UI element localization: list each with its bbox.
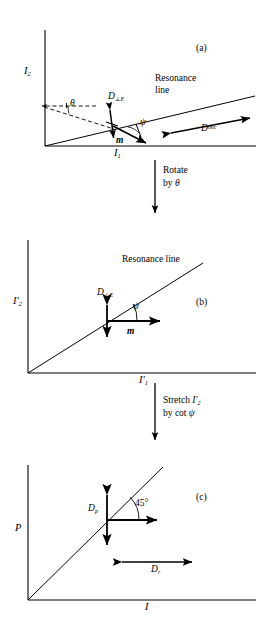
panel-c-angle-label: 45° (135, 499, 148, 509)
panel-a-graph (42, 30, 256, 146)
panel-c-y-axis-label: P (15, 523, 21, 534)
panel-a-theta-label: θ (70, 99, 75, 109)
panel-b-x-axis-label-sub: 1 (145, 379, 148, 386)
panel-a-x-axis-label-sub: 1 (118, 152, 121, 159)
connector-stretch-line2-prefix: by cot (163, 408, 189, 418)
panel-a-tag: (a) (196, 44, 207, 54)
connector-stretch-line1: Stretch I′2 (163, 396, 200, 407)
panel-b-tag: (b) (196, 298, 207, 308)
panel-a-resonance-line (45, 96, 255, 146)
panel-b-dperp-label-sub: ⊥E (104, 292, 113, 298)
connector-rotate-line2: by θ (163, 179, 180, 189)
figure-canvas (0, 0, 265, 625)
panel-b-dperp-label-base: D (97, 287, 104, 297)
panel-c-dp-label-base: D (88, 503, 95, 513)
panel-a-x-axis-label: I1 (114, 148, 121, 159)
panel-b-psi-label: ψ (133, 302, 139, 312)
connector-rotate-line1: Rotate (163, 166, 188, 176)
panel-a-y-axis-label: I2 (24, 66, 31, 77)
connector-stretch-line1-symbol-sub: 2 (198, 400, 201, 406)
panel-c-dr-label: Dr (151, 565, 160, 576)
panel-a-resonance-label-line1: Resonance (155, 74, 196, 84)
panel-a-theta-arc (68, 106, 69, 114)
panel-c-graph (28, 465, 256, 600)
connector-stretch-line1-prefix: Stretch (163, 395, 192, 405)
panel-a-donc-label-sup: onc (208, 124, 216, 130)
connector-stretch-line2-symbol: ψ (189, 408, 195, 418)
panel-a-dperp-label-sub: ⊥E (115, 96, 124, 102)
panel-b-resonance-line (28, 263, 203, 373)
connector-stretch-line2: by cot ψ (163, 409, 195, 419)
panel-a-m-label: m (116, 136, 123, 146)
panel-c-dp-label: Dp (88, 504, 98, 515)
panel-c-dp-label-sub: p (95, 508, 98, 514)
panel-c-tag: (c) (196, 493, 207, 503)
panel-b-x-axis-label: I′1 (139, 375, 148, 386)
panel-b-y-axis-label-sub: 2 (19, 300, 22, 307)
panel-a-dperp-label: D⊥E (108, 92, 124, 103)
panel-a-donc-label-base: D (201, 123, 208, 133)
connector-rotate-line2-symbol: θ (175, 178, 180, 188)
connector-rotate-line2-prefix: by (163, 178, 175, 188)
panel-a-dperp-label-base: D (108, 91, 115, 101)
panel-a-donc-label: Donc (201, 124, 216, 134)
panel-b-y-axis-label: I′2 (13, 296, 22, 307)
panel-c-dr-label-sub: r (158, 569, 160, 575)
panel-c-x-axis-label: I (145, 602, 149, 613)
panel-b-resonance-label: Resonance line (122, 255, 180, 265)
panel-b-dperp-label: D⊥E (97, 288, 113, 299)
panel-c-diagonal-line (28, 467, 163, 600)
panel-b-m-label: m (127, 327, 134, 337)
panel-a-resonance-label-line2: line (155, 86, 169, 96)
panel-a-y-axis-label-sub: 2 (28, 70, 31, 77)
panel-a-psi-label: ψ (140, 118, 146, 128)
panel-a-theta-dashed-slant (44, 107, 114, 129)
panel-c-dr-label-base: D (151, 564, 158, 574)
